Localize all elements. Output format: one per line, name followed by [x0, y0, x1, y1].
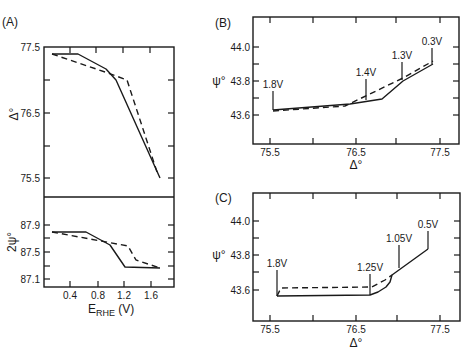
panel-a-ytick-87-5: 87.5 — [21, 247, 41, 258]
panel-a-top-dashed-line — [52, 54, 158, 175]
panel-b-solid-line — [273, 64, 433, 110]
panel-c-ytick-43-8: 43.8 — [231, 250, 251, 261]
panel-b-xlabel: Δ° — [350, 158, 363, 172]
panel-b-xtick-76-5: 76.5 — [346, 147, 366, 158]
panel-a-ytick-77-5: 77.5 — [21, 42, 41, 53]
panel-c-solid-line — [277, 249, 428, 296]
panel-b-ylabel: ψ° — [212, 74, 226, 88]
panel-c-xlabel: Δ° — [350, 336, 363, 350]
panel-b: (B) 44.0 43.8 43.6 — [212, 16, 459, 172]
panel-c-ylabel: ψ° — [212, 248, 226, 262]
panel-a-xtick-1-2: 1.2 — [117, 290, 131, 301]
panel-a-top-ticks — [70, 47, 150, 53]
panel-c-annot-1-8v: 1.8V — [267, 258, 288, 269]
figure-canvas: (A) 77.5 76.5 75.5 Δ° — [0, 0, 474, 355]
panel-b-label: (B) — [215, 16, 231, 30]
panel-c-annot-1-25v: 1.25V — [357, 262, 383, 273]
panel-a-xlabel: ERHE (V) — [88, 302, 134, 318]
panel-c-yticks — [253, 221, 460, 290]
panel-b-ytick-43-6: 43.6 — [231, 110, 251, 121]
panel-a-lower-yticks — [44, 225, 174, 279]
panel-b-yticks — [253, 47, 459, 115]
panel-b-annot-1-4v: 1.4V — [356, 67, 377, 78]
panel-a-bottom-dashed-line — [52, 232, 160, 268]
panel-c-frame — [253, 193, 460, 321]
panel-c-label: (C) — [215, 191, 232, 205]
panel-a-xtick-0-8: 0.8 — [91, 290, 105, 301]
panel-a-label: (A) — [2, 15, 18, 29]
panel-b-ytick-43-8: 43.8 — [231, 76, 251, 87]
panel-b-xtick-75-5: 75.5 — [260, 147, 280, 158]
panel-a-ytick-87-9: 87.9 — [21, 220, 41, 231]
panel-c-xticks — [270, 193, 440, 321]
panel-a-top-ylabel: Δ° — [7, 107, 21, 120]
panel-c-xtick-75-5: 75.5 — [260, 324, 280, 335]
panel-b-ytick-44-0: 44.0 — [231, 42, 251, 53]
panel-a-bottom-ylabel: 2ψ° — [5, 232, 19, 252]
panel-b-annot-0-3v: 0.3V — [422, 36, 443, 47]
panel-c: (C) 44.0 43.8 43.6 — [212, 191, 460, 350]
panel-b-annot-1-3v: 1.3V — [392, 50, 413, 61]
panel-b-xticks — [270, 17, 440, 144]
panel-c-ytick-44-0: 44.0 — [231, 216, 251, 227]
panel-c-ytick-43-6: 43.6 — [231, 285, 251, 296]
panel-c-xtick-77-5: 77.5 — [430, 324, 450, 335]
panel-a-ytick-87-1: 87.1 — [21, 274, 41, 285]
panel-a-ytick-76-5: 76.5 — [21, 108, 41, 119]
panel-a-upper-yticks — [44, 80, 174, 178]
panel-a-bottom-ticks — [70, 281, 151, 287]
panel-c-annot-1-05v: 1.05V — [386, 233, 412, 244]
panel-a-xtick-0-4: 0.4 — [63, 290, 77, 301]
panel-c-xtick-76-5: 76.5 — [346, 324, 366, 335]
panel-b-xtick-77-5: 77.5 — [430, 147, 450, 158]
panel-a-xtick-1-6: 1.6 — [144, 290, 158, 301]
panel-a-ytick-75-5: 75.5 — [21, 173, 41, 184]
panel-a: (A) 77.5 76.5 75.5 Δ° — [2, 15, 174, 318]
panel-b-annot-1-8v: 1.8V — [263, 79, 284, 90]
panel-c-annot-0-5v: 0.5V — [418, 219, 439, 230]
panel-a-top-solid-line — [52, 54, 160, 178]
